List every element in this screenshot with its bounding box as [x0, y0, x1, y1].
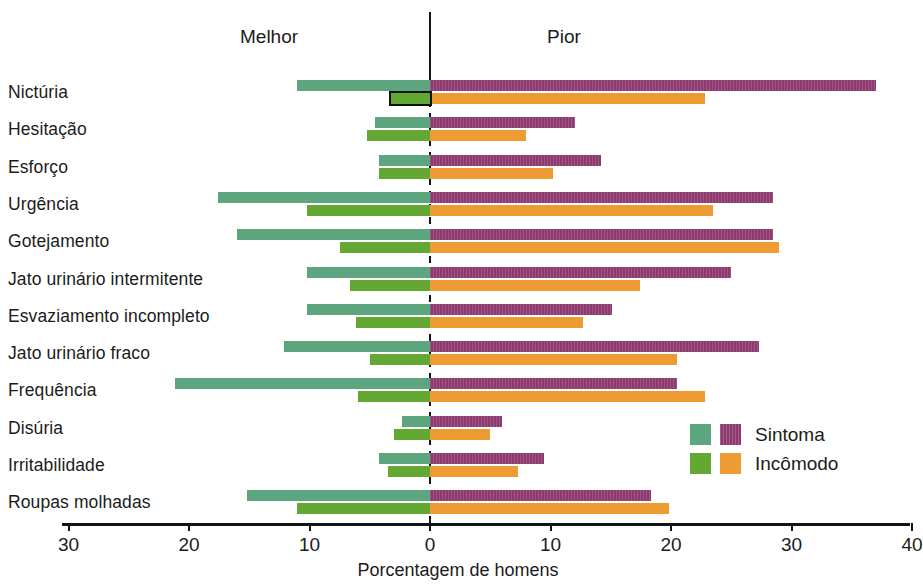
category-label: Urgência [8, 193, 79, 214]
bar-sintoma-melhor [175, 378, 430, 389]
bar-incomodo-melhor [370, 354, 430, 365]
category-label: Disúria [8, 417, 63, 438]
legend-swatch-incomodo-pior [720, 453, 741, 474]
bar-sintoma-melhor [247, 490, 430, 501]
bar-incomodo-melhor [297, 503, 430, 514]
bar-sintoma-pior [430, 453, 544, 464]
bar-sintoma-melhor [307, 304, 430, 315]
bar-sintoma-pior [430, 341, 759, 352]
legend-swatch-sintoma-melhor [690, 424, 711, 445]
legend-row: Incômodo [690, 449, 838, 478]
bar-incomodo-pior [430, 93, 705, 104]
x-tick-label: 20 [178, 534, 199, 556]
bar-incomodo-melhor [358, 391, 430, 402]
bar-incomodo-melhor [394, 429, 430, 440]
bar-sintoma-melhor [237, 229, 430, 240]
bar-incomodo-pior [430, 391, 705, 402]
x-tick [911, 523, 913, 531]
bar-sintoma-pior [430, 117, 575, 128]
bar-incomodo-pior [430, 503, 669, 514]
x-tick [670, 523, 672, 531]
bar-sintoma-pior [430, 229, 773, 240]
bar-sintoma-pior [430, 490, 651, 501]
category-label: Jato urinário fraco [8, 343, 150, 364]
category-label: Jato urinário intermitente [8, 268, 203, 289]
x-tick [429, 523, 431, 531]
legend-swatch-incomodo-melhor [690, 453, 711, 474]
bar-incomodo-melhor [340, 242, 430, 253]
x-tick [309, 523, 311, 531]
x-tick-label: 10 [540, 534, 561, 556]
legend-row: Sintoma [690, 420, 838, 449]
bar-sintoma-melhor [284, 341, 430, 352]
bar-incomodo-melhor [391, 93, 430, 104]
chart-legend: Sintoma Incômodo [690, 420, 838, 478]
zero-line-solid [429, 12, 431, 74]
x-tick-label: 0 [425, 534, 436, 556]
bar-sintoma-melhor [297, 80, 430, 91]
category-label: Nictúria [8, 82, 68, 103]
bar-sintoma-melhor [379, 155, 430, 166]
bar-sintoma-pior [430, 416, 502, 427]
bar-sintoma-pior [430, 267, 731, 278]
bar-sintoma-pior [430, 155, 601, 166]
x-tick-label: 40 [901, 534, 922, 556]
bar-incomodo-melhor [356, 317, 430, 328]
category-label: Gotejamento [8, 231, 109, 252]
x-tick [550, 523, 552, 531]
bar-sintoma-pior [430, 378, 677, 389]
x-tick-label: 20 [660, 534, 681, 556]
bar-incomodo-pior [430, 168, 553, 179]
category-label: Esforço [8, 156, 68, 177]
x-tick [791, 523, 793, 531]
legend-swatch-sintoma-pior [720, 424, 741, 445]
legend-label-sintoma: Sintoma [755, 424, 825, 446]
bar-incomodo-pior [430, 205, 713, 216]
bar-incomodo-melhor [307, 205, 430, 216]
bar-incomodo-melhor [350, 280, 430, 291]
bar-incomodo-melhor [379, 168, 430, 179]
category-label: Esvaziamento incompleto [8, 305, 210, 326]
bar-incomodo-pior [430, 429, 490, 440]
x-axis-title: Porcentagem de homens [0, 560, 916, 581]
bar-incomodo-pior [430, 280, 640, 291]
x-tick [68, 523, 70, 531]
melhor-header-label: Melhor [240, 26, 298, 48]
bar-incomodo-melhor [388, 466, 430, 477]
bar-sintoma-melhor [402, 416, 430, 427]
bar-incomodo-pior [430, 354, 677, 365]
pior-header-label: Pior [547, 26, 581, 48]
x-tick-label: 10 [299, 534, 320, 556]
bar-sintoma-melhor [307, 267, 430, 278]
category-label: Frequência [8, 380, 97, 401]
legend-label-incomodo: Incômodo [755, 453, 838, 475]
bar-incomodo-pior [430, 130, 526, 141]
category-label: Irritabilidade [8, 455, 105, 476]
x-tick-label: 30 [58, 534, 79, 556]
bar-sintoma-melhor [218, 192, 430, 203]
bar-sintoma-melhor [375, 117, 430, 128]
bar-sintoma-melhor [379, 453, 430, 464]
x-tick [188, 523, 190, 531]
category-label: Roupas molhadas [8, 492, 151, 513]
bar-sintoma-pior [430, 192, 773, 203]
bar-incomodo-pior [430, 466, 518, 477]
x-tick-label: 30 [781, 534, 802, 556]
bar-incomodo-pior [430, 317, 583, 328]
bar-incomodo-pior [430, 242, 779, 253]
bar-sintoma-pior [430, 304, 612, 315]
bar-sintoma-pior [430, 80, 876, 91]
bar-incomodo-melhor [367, 130, 430, 141]
category-label: Hesitação [8, 119, 87, 140]
